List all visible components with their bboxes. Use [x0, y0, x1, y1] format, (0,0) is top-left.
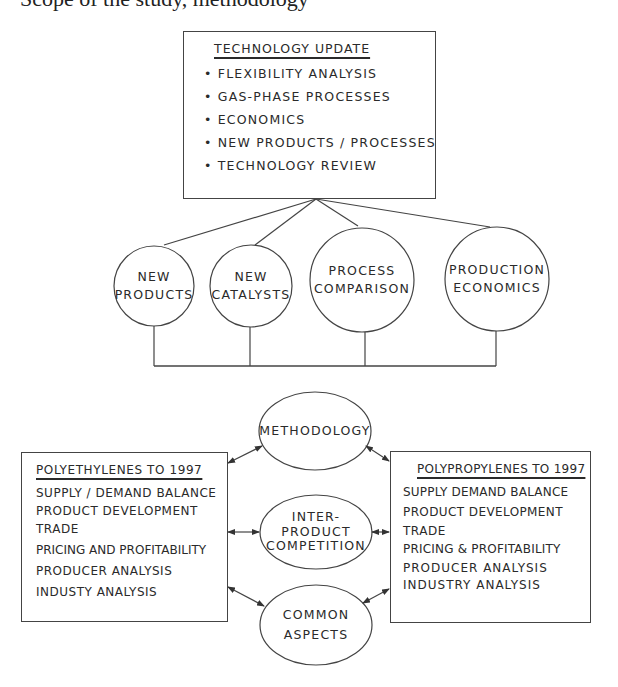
polyethylenes-list: SUPPLY / DEMAND BALANCE PRODUCT DEVELOPM… — [36, 486, 227, 599]
list-item: PRODUCER ANALYSIS — [36, 564, 227, 578]
list-item: TRADE — [403, 524, 590, 538]
node-methodology: METHODOLOGY — [259, 392, 371, 470]
technology-update-list: • FLEXIBILITY ANALYSIS • GAS-PHASE PROCE… — [204, 66, 435, 173]
list-item: TRADE — [36, 522, 227, 536]
list-item: • TECHNOLOGY REVIEW — [204, 158, 435, 173]
list-item: • GAS-PHASE PROCESSES — [204, 89, 435, 104]
polypropylenes-box: POLYPROPYLENES TO 1997 SUPPLY DEMAND BAL… — [390, 451, 591, 623]
node-new-catalysts: NEWCATALYSTS — [210, 246, 292, 326]
list-item: INDUSTRY ANALYSIS — [403, 578, 590, 592]
polyethylenes-box: POLYETHYLENES TO 1997 SUPPLY / DEMAND BA… — [21, 452, 228, 622]
list-item: SUPPLY DEMAND BALANCE — [403, 485, 590, 499]
list-item: PRODUCT DEVELOPMENT — [403, 505, 590, 519]
node-process-comparison: PROCESSCOMPARISON — [310, 228, 414, 332]
list-item: SUPPLY / DEMAND BALANCE — [36, 486, 227, 500]
technology-update-title: TECHNOLOGY UPDATE — [214, 41, 435, 56]
list-item: PRICING & PROFITABILITY — [403, 542, 590, 556]
list-item: PRICING AND PROFITABILITY — [36, 543, 227, 557]
node-production-economics: PRODUCTIONECONOMICS — [445, 227, 549, 331]
node-inter-product-competition: INTER-PRODUCTCOMPETITION — [260, 495, 372, 569]
list-item: PRODUCER ANALYSIS — [403, 561, 590, 575]
list-item: • FLEXIBILITY ANALYSIS — [204, 66, 435, 81]
technology-update-box: TECHNOLOGY UPDATE • FLEXIBILITY ANALYSIS… — [183, 31, 436, 199]
polypropylenes-title: POLYPROPYLENES TO 1997 — [417, 462, 590, 476]
list-item: PRODUCT DEVELOPMENT — [36, 504, 227, 518]
list-item: • ECONOMICS — [204, 112, 435, 127]
list-item: • NEW PRODUCTS / PROCESSES — [204, 135, 435, 150]
polypropylenes-list: SUPPLY DEMAND BALANCE PRODUCT DEVELOPMEN… — [403, 485, 590, 592]
node-new-products: NEWPRODUCTS — [114, 246, 194, 326]
list-item: INDUSTY ANALYSIS — [36, 585, 227, 599]
node-common-aspects: COMMONASPECTS — [260, 585, 372, 665]
polyethylenes-title: POLYETHYLENES TO 1997 — [36, 463, 227, 477]
